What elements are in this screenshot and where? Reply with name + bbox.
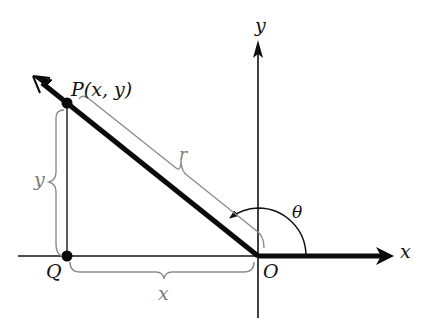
horizontal-brace [70, 262, 254, 279]
label-horizontal-brace: x [158, 282, 169, 304]
radius-brace [79, 96, 264, 248]
label-vertical-brace: y [34, 168, 45, 190]
point-q [62, 251, 73, 262]
label-x-axis: x [400, 240, 411, 262]
label-origin: O [263, 260, 279, 282]
label-point-p: P(x, y) [71, 78, 132, 100]
label-point-q: Q [46, 260, 62, 282]
vertical-brace [49, 110, 64, 256]
label-y-axis: y [255, 14, 266, 36]
y-axis [253, 40, 263, 318]
label-radius: r [179, 144, 187, 164]
diagram-canvas [0, 0, 432, 332]
label-angle-theta: θ [292, 202, 302, 222]
x-axis [18, 247, 394, 265]
